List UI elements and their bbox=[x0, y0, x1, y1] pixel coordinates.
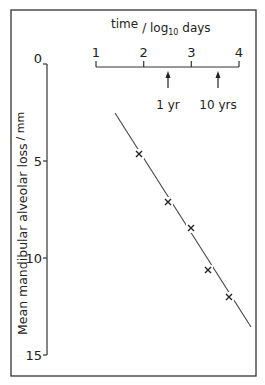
data-point-marker-icon bbox=[186, 223, 196, 233]
x-axis-title: time/ log10 days bbox=[111, 17, 211, 37]
y-axis-title-main: Mean mandibular alveolar loss bbox=[15, 143, 30, 335]
arrow-up-icon bbox=[166, 71, 171, 78]
chart: 1 2 3 4 time/ log10 days 1 yr 10 yrs 0 5… bbox=[0, 0, 265, 385]
y-tick-label: 5 bbox=[34, 154, 42, 169]
x-axis-title-main: time bbox=[111, 17, 138, 31]
x-axis-unit-prefix: / log bbox=[142, 21, 168, 35]
x-tick-label: 2 bbox=[140, 45, 148, 60]
data-points bbox=[134, 149, 234, 302]
x-axis-unit-sub: 10 bbox=[168, 28, 178, 37]
annotation-label: 10 yrs bbox=[199, 98, 236, 112]
x-axis-unit-suffix: days bbox=[178, 21, 210, 35]
chart-frame bbox=[11, 10, 256, 376]
x-axis: 1 2 3 4 time/ log10 days bbox=[92, 17, 243, 67]
x-tick-label: 1 bbox=[92, 45, 100, 60]
y-axis-title: Mean mandibular alveolar loss/ mm bbox=[14, 112, 30, 335]
y-tick-label: 0 bbox=[34, 51, 42, 66]
data-point-marker-icon bbox=[224, 292, 234, 302]
x-tick-label: 4 bbox=[235, 45, 243, 60]
y-axis: 0 5 10 15 Mean mandibular alveolar loss/… bbox=[14, 51, 47, 363]
annotation-1yr: 1 yr bbox=[156, 71, 180, 112]
y-tick-label: 15 bbox=[25, 348, 42, 363]
y-axis-unit: / mm bbox=[14, 112, 27, 141]
annotation-10yrs: 10 yrs bbox=[199, 71, 236, 112]
data-point-marker-icon bbox=[134, 149, 144, 159]
arrow-up-icon bbox=[216, 71, 221, 78]
data-point-marker-icon bbox=[163, 197, 173, 207]
data-point-marker-icon bbox=[203, 265, 213, 275]
x-tick-label: 3 bbox=[187, 45, 195, 60]
annotation-label: 1 yr bbox=[156, 98, 180, 112]
